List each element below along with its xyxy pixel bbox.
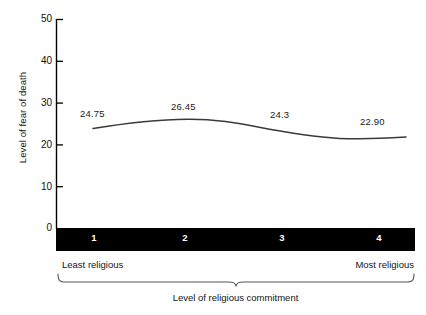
caption-least-religious: Least religious xyxy=(62,259,123,270)
data-label-point-1: 24.75 xyxy=(80,108,105,119)
y-axis-ticks xyxy=(57,20,64,187)
y-tick-label-10: 10 xyxy=(26,182,52,192)
caption-most-religious: Most religious xyxy=(355,259,414,270)
y-tick-label-30: 30 xyxy=(26,98,52,108)
category-label-3: 3 xyxy=(272,232,292,244)
y-tick-label-20: 20 xyxy=(26,140,52,150)
y-axis-title: Level of fear of death xyxy=(17,53,28,183)
x-axis-title: Level of religious commitment xyxy=(56,292,415,303)
category-label-2: 2 xyxy=(175,232,195,244)
category-band xyxy=(56,228,415,251)
category-label-4: 4 xyxy=(369,232,389,244)
data-label-point-4: 22.90 xyxy=(360,116,385,127)
chart-figure: Level of fear of death 50 40 30 20 10 0 … xyxy=(0,0,426,315)
y-tick-label-0: 0 xyxy=(26,223,52,233)
y-tick-label-50: 50 xyxy=(26,14,52,24)
axis-range-brace xyxy=(58,274,414,286)
data-label-point-2: 26.45 xyxy=(171,101,196,112)
category-label-1: 1 xyxy=(84,232,104,244)
y-tick-label-40: 40 xyxy=(26,56,52,66)
data-label-point-3: 24.3 xyxy=(270,109,289,120)
